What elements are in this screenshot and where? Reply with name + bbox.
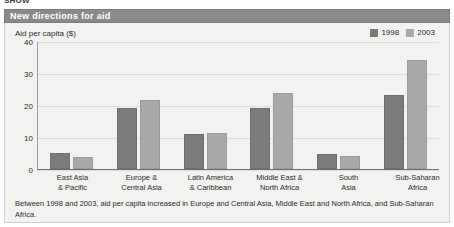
chart-panel: Aid per capita ($) 19982003 010203040 Ea… [4, 23, 450, 223]
x-axis-label: Latin America& Caribbean [176, 173, 245, 193]
legend-swatch-icon [370, 29, 378, 37]
bar-1998 [317, 154, 337, 169]
y-axis-title: Aid per capita ($) [15, 29, 76, 38]
x-axis-label: Europe &Central Asia [107, 173, 176, 193]
bar-group [305, 42, 372, 169]
figure-title: New directions for aid [10, 11, 111, 21]
bar-group [238, 42, 305, 169]
bar-group [172, 42, 239, 169]
x-axis-label-line: South [314, 173, 383, 183]
x-axis-label-line: Central Asia [107, 183, 176, 193]
x-axis-label-line: Europe & [107, 173, 176, 183]
bar-1998 [50, 153, 70, 169]
figure-caption: Between 1998 and 2003, aid per capita in… [15, 199, 443, 220]
y-axis-tick-label: 20 [15, 102, 33, 111]
bars-group [38, 42, 439, 169]
legend-label: 2003 [417, 28, 435, 37]
bar-1998 [384, 95, 404, 169]
x-axis-label-line: Africa [383, 183, 452, 193]
x-axis-label-line: Latin America [176, 173, 245, 183]
figure-panel: SHOW New directions for aid Aid per capi… [0, 0, 454, 227]
bar-1998 [184, 134, 204, 169]
legend-swatch-icon [406, 29, 414, 37]
y-axis-tick-label: 10 [15, 134, 33, 143]
bar-1998 [250, 108, 270, 169]
bar-1998 [117, 108, 137, 169]
bar-2003 [340, 156, 360, 169]
bar-2003 [273, 93, 293, 169]
bar-2003 [73, 157, 93, 169]
x-axis-label: Middle East &North Africa [245, 173, 314, 193]
x-axis-label-line: Asia [314, 183, 383, 193]
gridline [37, 170, 439, 171]
bar-group [372, 42, 439, 169]
x-axis-label-line: East Asia [38, 173, 107, 183]
bar-group [38, 42, 105, 169]
x-axis-label-line: North Africa [245, 183, 314, 193]
y-axis-tick-label: 40 [15, 38, 33, 47]
y-axis-tick-label: 0 [15, 166, 33, 175]
chart-legend: 19982003 [370, 28, 435, 37]
clipped-top-caption: SHOW [4, 0, 64, 4]
x-axis-labels: East Asia& PacificEurope &Central AsiaLa… [38, 173, 452, 193]
y-axis-tick-label: 30 [15, 70, 33, 79]
x-axis-label-line: Sub-Saharan [383, 173, 452, 183]
bar-2003 [140, 100, 160, 169]
bar-group [105, 42, 172, 169]
x-axis-label: Sub-SaharanAfrica [383, 173, 452, 193]
legend-label: 1998 [381, 28, 399, 37]
x-axis-label-line: Middle East & [245, 173, 314, 183]
x-axis-label: SouthAsia [314, 173, 383, 193]
bar-2003 [207, 133, 227, 169]
plot-area: 010203040 [15, 42, 439, 170]
figure-header-bar: New directions for aid [4, 9, 450, 23]
legend-item: 2003 [406, 28, 435, 37]
x-axis-label: East Asia& Pacific [38, 173, 107, 193]
legend-item: 1998 [370, 28, 399, 37]
x-axis-line [37, 169, 439, 170]
x-axis-label-line: & Caribbean [176, 183, 245, 193]
bar-2003 [407, 60, 427, 169]
x-axis-label-line: & Pacific [38, 183, 107, 193]
